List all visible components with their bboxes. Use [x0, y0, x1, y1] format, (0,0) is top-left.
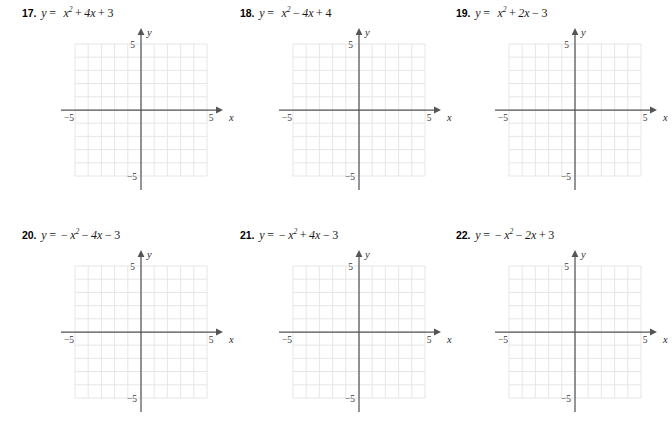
equation-constant-term: 4	[325, 6, 331, 20]
equation-lhs: y	[475, 6, 480, 20]
x-axis-max-tick-label: 5	[209, 113, 214, 123]
coordinate-grid: −555−5xy	[265, 26, 445, 206]
y-axis-max-tick-label: 5	[564, 40, 569, 50]
equation-operator-2: −	[532, 6, 539, 20]
equation-linear-term: 4x	[84, 6, 95, 20]
problem-equation: y=−x2−2x+3	[475, 228, 554, 242]
equation-quadratic-exponent: 2	[503, 5, 507, 14]
equation-operator-2: −	[105, 228, 112, 242]
problem-header: 18.y=x2−4x+4	[240, 6, 331, 24]
axes	[279, 28, 441, 190]
x-axis-min-tick-label: −5	[64, 335, 74, 345]
problem-number: 17.	[22, 7, 36, 19]
y-axis-max-tick-label: 5	[348, 40, 353, 50]
equation-operator-1: +	[75, 6, 82, 20]
y-axis-max-tick-label: 5	[130, 262, 135, 272]
axes	[61, 28, 223, 190]
problem-equation: y=x2+4x+3	[41, 6, 113, 20]
equation-linear-term: 4x	[91, 228, 102, 242]
equation-quadratic-exponent: 2	[510, 227, 514, 236]
x-axis-min-tick-label: −5	[498, 113, 508, 123]
problem-equation: y=x2+2x−3	[475, 6, 547, 20]
equation-constant-term: 3	[107, 6, 113, 20]
equation-quadratic-exponent: 2	[287, 5, 291, 14]
problem-item: 20.y=−x2−4x−3−555−5xy	[22, 228, 246, 447]
coordinate-grid: −555−5xy	[47, 248, 227, 428]
equation-constant-term: 3	[541, 6, 547, 20]
equation-equals: =	[49, 6, 56, 20]
equation-operator-2: −	[323, 228, 330, 242]
equation-linear-term: 4x	[302, 6, 313, 20]
y-axis-min-tick-label: −5	[561, 394, 571, 404]
problem-header: 20.y=−x2−4x−3	[22, 228, 120, 246]
problem-number: 20.	[22, 229, 36, 241]
equation-quadratic-exponent: 2	[76, 227, 80, 236]
problem-header: 22.y=−x2−2x+3	[456, 228, 554, 246]
equation-lhs: y	[259, 228, 264, 242]
axes	[495, 28, 657, 190]
axes	[279, 250, 441, 412]
x-axis-min-tick-label: −5	[282, 113, 292, 123]
problem-equation: y=x2−4x+4	[259, 6, 331, 20]
x-axis-max-tick-label: 5	[427, 335, 432, 345]
y-axis-label: y	[364, 27, 370, 38]
problem-item: 21.y=−x2+4x−3−555−5xy	[240, 228, 464, 447]
x-axis-max-tick-label: 5	[643, 335, 648, 345]
problem-number: 21.	[240, 229, 254, 241]
problem-header: 17.y=x2+4x+3	[22, 6, 113, 24]
equation-equals: =	[267, 228, 274, 242]
problem-item: 22.y=−x2−2x+3−555−5xy	[456, 228, 672, 447]
x-axis-min-tick-label: −5	[282, 335, 292, 345]
equation-lhs: y	[259, 6, 264, 20]
x-axis-label: x	[662, 334, 668, 345]
equation-linear-term: 4x	[309, 228, 320, 242]
axes	[495, 250, 657, 412]
x-axis-label: x	[662, 112, 668, 123]
y-axis-max-tick-label: 5	[130, 40, 135, 50]
x-axis-max-tick-label: 5	[427, 113, 432, 123]
equation-equals: =	[267, 6, 274, 20]
x-axis-label: x	[446, 334, 452, 345]
y-axis-label: y	[580, 27, 586, 38]
equation-operator-1: −	[82, 228, 89, 242]
coordinate-grid: −555−5xy	[265, 248, 445, 428]
x-axis-min-tick-label: −5	[498, 335, 508, 345]
equation-lhs: y	[41, 228, 46, 242]
problem-number: 18.	[240, 7, 254, 19]
y-axis-min-tick-label: −5	[127, 172, 137, 182]
y-axis-label: y	[146, 249, 152, 260]
worksheet-page: 17.y=x2+4x+3−555−5xy18.y=x2−4x+4−555−5xy…	[0, 0, 672, 447]
equation-linear-term: 2x	[525, 228, 536, 242]
equation-equals: =	[49, 228, 56, 242]
equation-operator-1: +	[300, 228, 307, 242]
coordinate-grid: −555−5xy	[47, 26, 227, 206]
x-axis-max-tick-label: 5	[209, 335, 214, 345]
coordinate-grid: −555−5xy	[481, 248, 661, 428]
problem-number: 22.	[456, 229, 470, 241]
equation-quadratic-exponent: 2	[294, 227, 298, 236]
problem-equation: y=−x2−4x−3	[41, 228, 120, 242]
y-axis-min-tick-label: −5	[345, 172, 355, 182]
y-axis-label: y	[580, 249, 586, 260]
x-axis-max-tick-label: 5	[643, 113, 648, 123]
equation-operator-1: −	[516, 228, 523, 242]
equation-constant-term: 3	[548, 228, 554, 242]
equation-equals: =	[483, 6, 490, 20]
coordinate-grid: −555−5xy	[481, 26, 661, 206]
problem-equation: y=−x2+4x−3	[259, 228, 338, 242]
y-axis-label: y	[364, 249, 370, 260]
x-axis-label: x	[228, 112, 234, 123]
x-axis-label: x	[446, 112, 452, 123]
equation-leading-sign: −	[279, 228, 286, 242]
y-axis-min-tick-label: −5	[561, 172, 571, 182]
equation-equals: =	[483, 228, 490, 242]
x-axis-label: x	[228, 334, 234, 345]
y-axis-max-tick-label: 5	[348, 262, 353, 272]
axes	[61, 250, 223, 412]
equation-operator-2: +	[98, 6, 105, 20]
equation-constant-term: 3	[332, 228, 338, 242]
problem-item: 17.y=x2+4x+3−555−5xy	[22, 6, 246, 229]
problem-number: 19.	[456, 7, 470, 19]
equation-operator-2: +	[539, 228, 546, 242]
problem-item: 19.y=x2+2x−3−555−5xy	[456, 6, 672, 229]
